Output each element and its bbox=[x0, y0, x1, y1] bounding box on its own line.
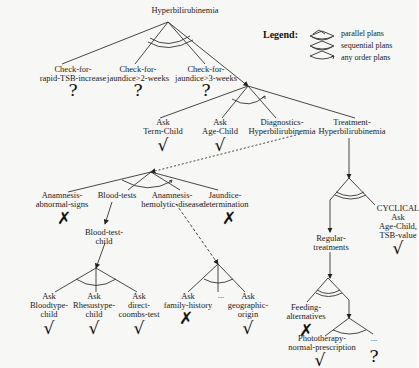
check-icon: √ bbox=[44, 320, 55, 337]
question-icon: ? bbox=[201, 82, 210, 99]
check-icon: √ bbox=[215, 137, 226, 154]
legend-sequential: sequential plans bbox=[341, 41, 392, 50]
cross-icon: ✗ bbox=[57, 210, 71, 227]
root-node: Hyperbilirubinemia bbox=[151, 6, 218, 15]
check-icon: √ bbox=[393, 240, 404, 257]
legend-any-order: any order plans bbox=[341, 53, 390, 62]
node-anamnesis-abnormal: Anamnesis- abnormal-signs bbox=[36, 191, 88, 209]
question-icon: ? bbox=[68, 82, 77, 99]
node-ellipsis-treatment: ... bbox=[371, 334, 377, 343]
node-cyclical: CYCLICAL Ask Age-Child, TSB-value bbox=[377, 204, 419, 240]
node-ask-geographic: Ask geographic- origin bbox=[228, 292, 269, 319]
legend-title: Legend: bbox=[263, 29, 298, 40]
node-ask-bloodtype: Ask Bloodtype- child bbox=[30, 292, 68, 319]
node-ellipsis-family: ... bbox=[218, 291, 224, 300]
node-diagnostics: Diagnostics- Hyperbilirubinemia bbox=[248, 118, 315, 136]
node-treatment: Treatment- Hyperbilirubinemia bbox=[318, 118, 385, 136]
cross-icon: ✗ bbox=[179, 310, 193, 327]
check-icon: √ bbox=[315, 352, 326, 368]
node-ask-rhesustype: Ask Rhesustype- child bbox=[73, 292, 115, 319]
legend-parallel: parallel plans bbox=[341, 29, 384, 38]
question-icon: ? bbox=[369, 348, 378, 365]
node-ask-coombs: Ask direct- coombs-test bbox=[118, 292, 159, 319]
node-ask-term: Ask Term-Child bbox=[143, 118, 183, 136]
check-icon: √ bbox=[89, 320, 100, 337]
node-regular-treatments: Regular- treatments bbox=[313, 234, 348, 252]
node-feeding-alternatives: Feeding- alternatives bbox=[286, 303, 325, 321]
node-jaundice-determination: Jaundice- determination bbox=[201, 191, 248, 209]
check-icon: √ bbox=[243, 320, 254, 337]
check-icon: √ bbox=[158, 137, 169, 154]
node-ask-age: Ask Age-Child bbox=[202, 118, 238, 136]
node-blood-test-child: Blood-test- child bbox=[85, 228, 123, 246]
node-blood-tests: Blood-tests bbox=[98, 191, 137, 200]
node-anamnesis-hemolytic: Anamnesis- hemolytic-disease bbox=[141, 191, 202, 209]
check-icon: √ bbox=[134, 320, 145, 337]
question-icon: ? bbox=[133, 82, 142, 99]
cross-icon: ✗ bbox=[222, 210, 236, 227]
